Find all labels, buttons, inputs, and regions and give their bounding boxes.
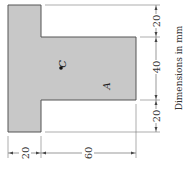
dim-bottom-left: 20 (20, 147, 31, 160)
centroid-label: C (57, 60, 68, 68)
dim-right-top: 20 (151, 15, 162, 28)
units-note: Dimensions in mm (174, 25, 184, 110)
t-section-diagram: C A 20 40 20 Dimensions in mm 20 60 (0, 0, 191, 171)
t-section-shape (8, 5, 136, 132)
dim-bottom-right: 60 (83, 147, 94, 160)
dim-right-middle: 40 (151, 61, 162, 74)
point-a-label: A (101, 82, 112, 90)
dim-right-bottom: 20 (151, 110, 162, 123)
